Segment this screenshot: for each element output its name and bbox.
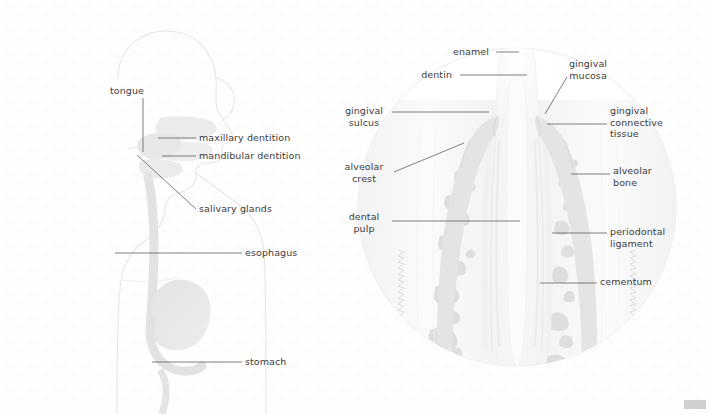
label-gingival-mucosa: gingival mucosa — [560, 58, 616, 81]
label-stomach: stomach — [245, 356, 286, 368]
label-dentin: dentin — [382, 69, 452, 81]
label-dental-pulp: dental pulp — [336, 211, 392, 234]
corner-marker — [684, 400, 706, 409]
label-gingival-sulcus: gingival sulcus — [336, 105, 392, 128]
label-enamel: enamel — [419, 46, 489, 58]
label-alveolar-bone: alveolar bone — [613, 165, 677, 188]
label-esophagus: esophagus — [245, 247, 297, 259]
dental-pulp — [507, 74, 527, 366]
figure-canvas: tongue maxillary dentition mandibular de… — [0, 0, 710, 414]
label-gingival-connective-tissue: gingival connective tissue — [610, 105, 688, 140]
label-alveolar-crest: alveolar crest — [336, 161, 392, 184]
label-cementum: cementum — [600, 276, 670, 288]
label-mandibular-dentition: mandibular dentition — [199, 150, 301, 162]
label-maxillary-dentition: maxillary dentition — [199, 132, 290, 144]
label-tongue: tongue — [110, 85, 144, 97]
label-salivary-glands: salivary glands — [199, 203, 272, 215]
label-periodontal-ligament: periodontal ligament — [610, 226, 682, 249]
